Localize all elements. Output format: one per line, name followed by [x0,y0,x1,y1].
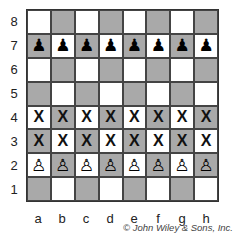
square-c5 [75,82,99,106]
file-label: d [98,211,122,226]
x-mark-icon: X [201,133,212,149]
rank-label: 8 [8,14,20,29]
square-f8 [146,10,170,34]
square-b4: X [51,106,75,130]
square-e4: X [123,106,147,130]
square-d3: X [99,129,123,153]
square-e2: ♙ [123,153,147,177]
square-f4: X [146,106,170,130]
white-pawn-icon: ♙ [175,157,190,174]
white-pawn-icon: ♙ [31,157,46,174]
file-label: c [74,211,98,226]
x-mark-icon: X [34,109,45,125]
x-mark-icon: X [81,133,92,149]
rank-label: 2 [8,158,20,173]
square-b2: ♙ [51,153,75,177]
x-mark-icon: X [81,109,92,125]
square-b8 [51,10,75,34]
square-h8 [194,10,218,34]
rank-label: 6 [8,62,20,77]
white-pawn-icon: ♙ [151,157,166,174]
square-c2: ♙ [75,153,99,177]
rank-label: 5 [8,86,20,101]
square-c8 [75,10,99,34]
copyright-credit: © John Wiley & Sons, Inc. [123,222,233,233]
white-pawn-icon: ♙ [79,157,94,174]
square-h5 [194,82,218,106]
x-mark-icon: X [201,109,212,125]
rank-label: 3 [8,134,20,149]
square-a6 [27,58,51,82]
square-g3: X [170,129,194,153]
black-pawn-icon: ♟ [127,37,142,54]
x-mark-icon: X [57,133,68,149]
square-h7: ♟ [194,34,218,58]
white-pawn-icon: ♙ [198,157,213,174]
square-f1 [146,177,170,201]
square-h1 [194,177,218,201]
file-label: b [50,211,74,226]
x-mark-icon: X [129,133,140,149]
square-d7: ♟ [99,34,123,58]
square-g5 [170,82,194,106]
square-c1 [75,177,99,201]
square-d5 [99,82,123,106]
square-b3: X [51,129,75,153]
x-mark-icon: X [177,109,188,125]
black-pawn-icon: ♟ [79,37,94,54]
square-h4: X [194,106,218,130]
black-pawn-icon: ♟ [151,37,166,54]
square-c7: ♟ [75,34,99,58]
square-f2: ♙ [146,153,170,177]
square-c6 [75,58,99,82]
square-e7: ♟ [123,34,147,58]
square-g4: X [170,106,194,130]
square-a8 [27,10,51,34]
rank-label: 1 [8,182,20,197]
square-d1 [99,177,123,201]
square-a1 [27,177,51,201]
square-f6 [146,58,170,82]
square-a4: X [27,106,51,130]
square-e1 [123,177,147,201]
square-d4: X [99,106,123,130]
square-g7: ♟ [170,34,194,58]
rank-label: 7 [8,38,20,53]
square-h2: ♙ [194,153,218,177]
square-f5 [146,82,170,106]
square-c4: X [75,106,99,130]
rank-label: 4 [8,110,20,125]
white-pawn-icon: ♙ [127,157,142,174]
x-mark-icon: X [177,133,188,149]
x-mark-icon: X [153,133,164,149]
square-d6 [99,58,123,82]
square-h3: X [194,129,218,153]
square-g1 [170,177,194,201]
square-a5 [27,82,51,106]
black-pawn-icon: ♟ [103,37,118,54]
square-g6 [170,58,194,82]
square-g2: ♙ [170,153,194,177]
square-f3: X [146,129,170,153]
chessboard: ♟♟♟♟♟♟♟♟XXXXXXXXXXXXXXXX♙♙♙♙♙♙♙♙ [26,9,219,202]
square-a7: ♟ [27,34,51,58]
x-mark-icon: X [57,109,68,125]
square-e8 [123,10,147,34]
white-pawn-icon: ♙ [103,157,118,174]
x-mark-icon: X [105,133,116,149]
square-g8 [170,10,194,34]
black-pawn-icon: ♟ [31,37,46,54]
square-a2: ♙ [27,153,51,177]
square-b7: ♟ [51,34,75,58]
file-label: a [26,211,50,226]
x-mark-icon: X [34,133,45,149]
square-h6 [194,58,218,82]
white-pawn-icon: ♙ [55,157,70,174]
square-b6 [51,58,75,82]
x-mark-icon: X [129,109,140,125]
square-b5 [51,82,75,106]
square-e3: X [123,129,147,153]
black-pawn-icon: ♟ [55,37,70,54]
black-pawn-icon: ♟ [175,37,190,54]
square-e6 [123,58,147,82]
